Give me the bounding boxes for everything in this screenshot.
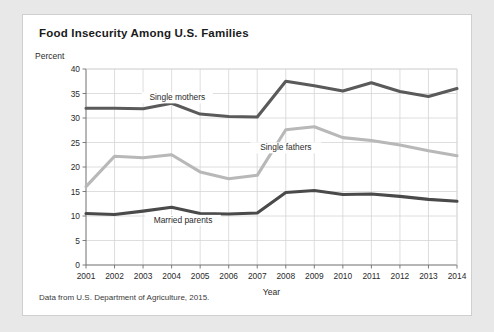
x-tick-2011: 2011	[362, 271, 380, 281]
y-tick-20: 20	[71, 162, 81, 172]
x-tick-2003: 2003	[134, 271, 153, 281]
chart-plot-area: 0510152025303540 20012002200320042005200…	[23, 15, 473, 317]
y-tick-0: 0	[75, 260, 80, 270]
x-tick-2010: 2010	[334, 271, 353, 281]
x-tick-2012: 2012	[391, 271, 410, 281]
x-tick-2007: 2007	[248, 271, 267, 281]
series-line-single-fathers	[86, 127, 457, 187]
x-tick-2001: 2001	[77, 271, 96, 281]
x-tick-2002: 2002	[105, 271, 124, 281]
x-axis-title: Year	[263, 287, 281, 297]
x-tick-2008: 2008	[276, 271, 295, 281]
series-label-single-fathers: Single fathers	[260, 142, 311, 152]
y-tick-40: 40	[71, 64, 81, 74]
chart-series-labels: Single mothersSingle fathersMarried pare…	[142, 92, 321, 226]
series-label-married-parents: Married parents	[154, 215, 213, 225]
x-tick-2009: 2009	[305, 271, 324, 281]
y-tick-35: 35	[71, 89, 81, 99]
series-line-single-mothers	[86, 81, 457, 117]
y-tick-15: 15	[71, 187, 81, 197]
x-tick-2014: 2014	[448, 271, 467, 281]
y-tick-25: 25	[71, 138, 81, 148]
x-axis-tick-labels: 2001200220032004200520062007200820092010…	[77, 271, 467, 281]
x-tick-2006: 2006	[219, 271, 238, 281]
source-note: Data from U.S. Department of Agriculture…	[39, 293, 209, 302]
y-axis-tick-labels: 0510152025303540	[71, 64, 81, 270]
series-line-married-parents	[86, 191, 457, 215]
y-tick-5: 5	[75, 236, 80, 246]
x-tick-2013: 2013	[419, 271, 438, 281]
line-chart: 0510152025303540 20012002200320042005200…	[23, 15, 473, 317]
figure-card: Food Insecurity Among U.S. Families Perc…	[22, 14, 472, 316]
x-tick-2004: 2004	[162, 271, 181, 281]
y-tick-30: 30	[71, 113, 81, 123]
y-tick-10: 10	[71, 211, 81, 221]
x-tick-2005: 2005	[191, 271, 210, 281]
series-label-single-mothers: Single mothers	[149, 92, 205, 102]
